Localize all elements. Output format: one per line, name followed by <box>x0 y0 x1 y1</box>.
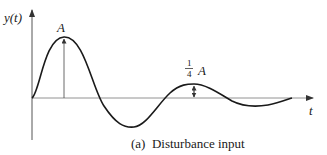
peak2-fraction-denominator: 4 <box>187 69 192 79</box>
peak1-label: A <box>56 20 65 35</box>
disturbance-response-diagram: y(t) t A 1 4 A (a) Disturbance input <box>0 0 327 155</box>
peak2-label: A <box>197 63 206 78</box>
x-axis-label: t <box>309 103 313 118</box>
y-axis-label: y(t) <box>2 10 22 25</box>
peak2-fraction-numerator: 1 <box>187 58 192 68</box>
figure-caption: (a) Disturbance input <box>131 136 245 151</box>
response-curve <box>32 37 292 127</box>
